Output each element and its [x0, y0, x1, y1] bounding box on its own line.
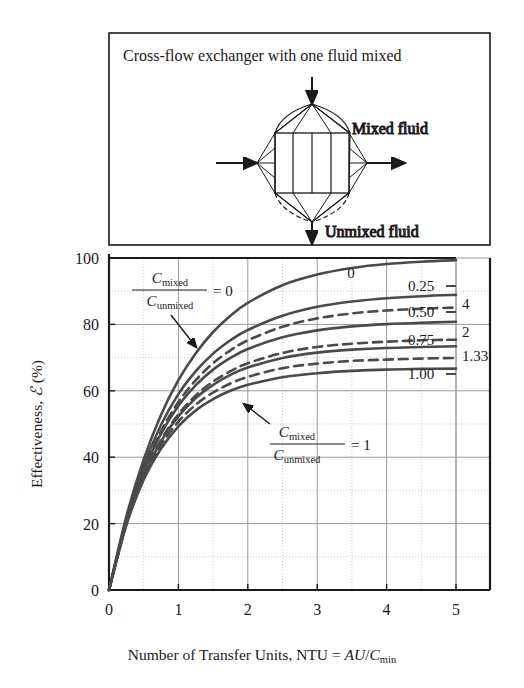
- curve-label-1-00: 1.00: [408, 366, 434, 382]
- y-axis-title: Effectiveness, ℰ (%): [28, 360, 46, 488]
- y-tick-label: 40: [83, 449, 99, 466]
- upper-ratio-leader-arrow: [171, 315, 196, 347]
- x-tick-label: 5: [452, 601, 460, 618]
- x-tick-label: 1: [174, 601, 182, 618]
- y-tick-label: 20: [83, 516, 99, 533]
- curve-label-1-33: 1.33: [462, 348, 488, 364]
- x-tick-label: 2: [244, 601, 252, 618]
- curve-label-0-75: 0.75: [408, 332, 434, 348]
- upper-ratio-numerator: Cmixed: [152, 270, 189, 288]
- unmixed-fluid-label: Unmixed fluid: [325, 223, 419, 240]
- y-tick-label: 80: [83, 316, 99, 333]
- x-axis-title: Number of Transfer Units, NTU = AU/Cmin: [128, 646, 397, 665]
- lower-ratio-equals: = 1: [351, 437, 371, 453]
- curve-label-0-50: 0.50: [408, 304, 434, 320]
- mixed-fluid-label: Mixed fluid: [352, 120, 428, 137]
- figure-root: Cross-flow exchanger with one fluid mixe…: [0, 0, 524, 688]
- y-tick-label: 100: [75, 250, 99, 267]
- upper-ratio-equals: = 0: [213, 283, 233, 299]
- lower-ratio-numerator: Cmixed: [279, 424, 316, 442]
- upper-ratio-denominator: Cunmixed: [147, 293, 195, 311]
- curve-label-0-25: 0.25: [408, 278, 434, 294]
- effectiveness-ntu-chart: Cross-flow exchanger with one fluid mixe…: [0, 0, 524, 688]
- x-tick-label: 4: [383, 601, 391, 618]
- lower-ratio-denominator: Cunmixed: [274, 447, 322, 465]
- lower-ratio-annotation: Cmixed Cunmixed = 1: [244, 404, 371, 465]
- curve-label-2: 2: [462, 324, 470, 340]
- x-tick-label: 0: [105, 601, 113, 618]
- y-tick-label: 60: [83, 383, 99, 400]
- curve-label-4: 4: [462, 296, 470, 312]
- x-tick-label: 3: [313, 601, 321, 618]
- y-tick-label: 0: [91, 582, 99, 599]
- curve-label-0: 0: [347, 265, 355, 281]
- box-title: Cross-flow exchanger with one fluid mixe…: [123, 47, 402, 65]
- upper-ratio-annotation: Cmixed Cunmixed = 0: [132, 270, 233, 347]
